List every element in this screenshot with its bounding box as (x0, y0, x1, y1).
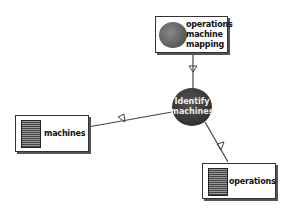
center-node[interactable]: Identify machines (172, 88, 212, 126)
top-node-line-2: machine (186, 30, 223, 39)
center-node-line-1: Identify (174, 97, 209, 107)
top-node[interactable]: operations machine mapping (155, 16, 228, 53)
left-node-label: machines (44, 129, 85, 138)
center-node-line-2: machines (171, 107, 214, 117)
top-node-line-3: mapping (186, 40, 224, 49)
arrow-icon (217, 142, 224, 150)
document-icon (208, 168, 228, 196)
edge-center-left (88, 112, 172, 127)
document-icon (21, 120, 41, 148)
blob-icon (159, 22, 187, 48)
edge-center-right (205, 122, 228, 162)
right-node[interactable]: operations (202, 163, 276, 199)
right-node-label: operations (229, 177, 276, 186)
left-node[interactable]: machines (15, 115, 89, 152)
top-node-line-1: operations (186, 20, 233, 29)
